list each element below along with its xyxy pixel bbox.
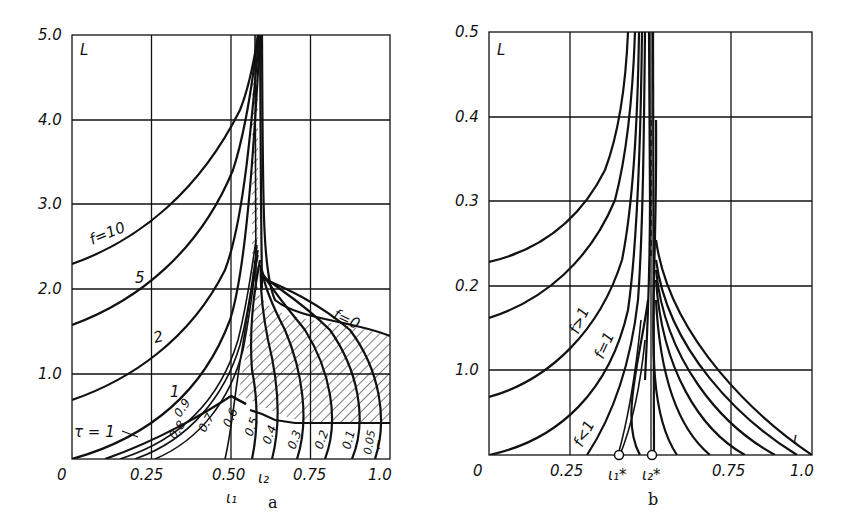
curve-iota1-a [618, 320, 641, 455]
panel-a-ytick-5: 5.0 [38, 26, 62, 44]
label-f-eq-1: f=1 [590, 329, 618, 361]
tau-label-0.8: 0.8 [166, 418, 189, 442]
figure: L 5.0 4.0 3.0 2.0 1.0 0 0.25 0.50 0.75 1… [0, 0, 848, 529]
panel-b-x-label: ι [793, 430, 798, 448]
panel-b-iota2-star: ι₂* [642, 466, 661, 484]
panel-a-caption: a [268, 493, 278, 512]
panel-a-iota2: ι₂ [258, 469, 269, 487]
panel-a-y-label: L [80, 41, 88, 59]
label-tau-1: τ = 1 [74, 423, 115, 441]
marker-iota2-star [648, 451, 657, 460]
panel-a-ytick-2: 2.0 [38, 280, 62, 298]
panel-b-ytick-05: 0.5 [455, 23, 479, 41]
panel-a-xtick-025: 0.25 [130, 466, 163, 484]
panel-b-iota1-star: ι₁* [608, 466, 627, 484]
right-branch-2 [656, 300, 710, 455]
panel-b-ytick-03: 0.3 [455, 192, 479, 210]
panel-a: L 5.0 4.0 3.0 2.0 1.0 0 0.25 0.50 0.75 1… [38, 26, 392, 512]
panel-a-ytick-3: 3.0 [38, 195, 62, 213]
panel-b-ytick-04: 0.4 [455, 108, 479, 126]
panel-b-y-label: L [497, 41, 505, 59]
panel-a-xtick-0: 0 [57, 466, 67, 484]
right-branch-5 [656, 260, 797, 455]
panel-a-xtick-075: 0.75 [293, 466, 326, 484]
right-branch-6 [656, 240, 812, 455]
curve-left-steep [587, 32, 645, 455]
panel-b-xtick-1: 1.0 [790, 462, 814, 480]
panel-a-iota1: ι₁ [226, 489, 237, 507]
label-f1: 1 [170, 383, 180, 401]
curve-fgt1-upper [489, 32, 628, 262]
tau-label-0.6: 0.6 [220, 406, 241, 430]
label-f2: 2 [151, 327, 165, 347]
tau-label-0.3: 0.3 [285, 428, 305, 451]
panel-a-xtick-050: 0.50 [212, 466, 245, 484]
label-f5: 5 [135, 269, 145, 287]
panel-b-caption: b [648, 490, 658, 509]
curve-flt1 [489, 32, 642, 455]
panel-b-ytick-02: 0.2 [455, 277, 479, 295]
panel-a-ytick-1: 1.0 [38, 365, 62, 383]
panel-a-ytick-4: 4.0 [38, 111, 62, 129]
label-f10: f=10 [87, 218, 128, 249]
marker-iota1-star [615, 451, 624, 460]
panel-b-xtick-0: 0 [473, 462, 483, 480]
panel-b-xtick-025: 0.25 [550, 462, 583, 480]
curve-f5 [72, 35, 258, 325]
panel-b: L 0.5 0.4 0.3 0.2 1.0 0 0.25 0.75 1.0 ι₁… [455, 23, 814, 509]
panel-b-ytick-10: 1.0 [455, 361, 479, 379]
panel-a-xtick-1: 1.0 [368, 466, 392, 484]
curve-f1 [489, 32, 639, 397]
tau-label-0.5: 0.5 [242, 415, 262, 438]
curve-fgt1 [489, 32, 635, 318]
panel-b-xtick-075: 0.75 [712, 462, 745, 480]
curve-center-a [645, 32, 650, 380]
